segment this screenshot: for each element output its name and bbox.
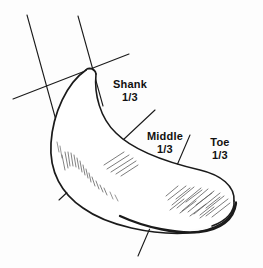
horseshoe-diagram	[0, 0, 263, 268]
label-middle: Middle 1/3	[136, 130, 194, 156]
label-middle-fraction: 1/3	[136, 143, 194, 156]
label-shank-name: Shank	[113, 78, 147, 90]
label-shank-fraction: 1/3	[103, 91, 157, 104]
division-line-heel-left	[27, 15, 57, 124]
label-middle-name: Middle	[147, 130, 183, 142]
diagram-canvas: Shank 1/3 Middle 1/3 Toe 1/3	[0, 0, 263, 268]
label-shank: Shank 1/3	[103, 78, 157, 104]
label-toe-fraction: 1/3	[200, 149, 240, 162]
label-toe: Toe 1/3	[200, 136, 240, 162]
label-toe-name: Toe	[210, 136, 229, 148]
